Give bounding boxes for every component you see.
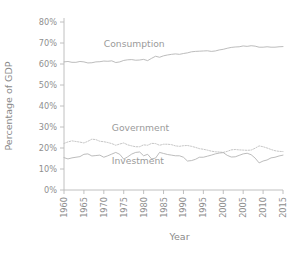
x-tick-label: 1995 [198, 197, 208, 218]
y-tick-label: 0% [44, 185, 57, 195]
x-tick-label: 1965 [79, 197, 89, 218]
series-line-government [64, 139, 283, 152]
x-tick-group: 1960196519701975198019851990199520002005… [59, 190, 288, 218]
x-axis: 1960196519701975198019851990199520002005… [59, 190, 288, 218]
x-axis-title: Year [168, 231, 189, 242]
x-tick-label: 1990 [178, 197, 188, 218]
x-tick-label: 2005 [238, 197, 248, 218]
x-tick-label: 1980 [139, 197, 149, 218]
x-tick-label: 1985 [159, 197, 169, 218]
series-label-government: Government [112, 122, 170, 133]
y-axis-title: Percentage of GDP [3, 61, 14, 150]
series-label-investment: Investment [112, 155, 164, 166]
y-tick-label: 40% [39, 101, 57, 111]
y-tick-group: 0%10%20%30%40%50%60%70%80% [39, 17, 64, 195]
y-tick-label: 20% [39, 143, 57, 153]
y-tick-label: 80% [39, 17, 57, 27]
y-tick-label: 70% [39, 38, 57, 48]
x-tick-label: 2010 [258, 197, 268, 218]
y-tick-label: 10% [39, 164, 57, 174]
series-group [64, 46, 283, 163]
gdp-composition-chart: 0%10%20%30%40%50%60%70%80% 1960196519701… [0, 0, 298, 253]
x-tick-label: 1970 [99, 197, 109, 218]
y-tick-label: 30% [39, 122, 57, 132]
y-tick-label: 60% [39, 59, 57, 69]
y-axis: 0%10%20%30%40%50%60%70%80% [39, 17, 64, 195]
x-tick-label: 1960 [59, 197, 69, 218]
x-tick-label: 2000 [218, 197, 228, 218]
series-line-consumption [64, 46, 283, 63]
chart-svg: 0%10%20%30%40%50%60%70%80% 1960196519701… [0, 0, 298, 253]
x-tick-label: 2015 [278, 197, 288, 218]
x-tick-label: 1975 [119, 197, 129, 218]
series-label-consumption: Consumption [104, 38, 165, 49]
series-line-investment [64, 152, 283, 163]
y-tick-label: 50% [39, 80, 57, 90]
